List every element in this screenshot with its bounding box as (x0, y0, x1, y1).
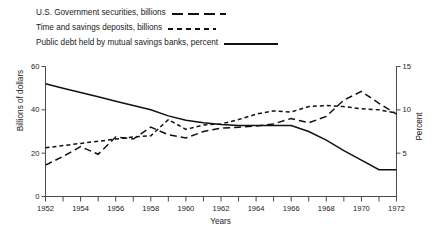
chart-plot-area: 0204060510151952195419561958196019621964… (0, 0, 441, 234)
x-tick-label: 1952 (37, 204, 54, 213)
x-tick-label: 1966 (283, 204, 300, 213)
y-tick-label-right: 5 (403, 149, 407, 158)
y-tick-label-right: 15 (403, 62, 411, 71)
y-tick-label-left: 20 (31, 149, 39, 158)
axis-frame (46, 67, 397, 197)
x-tick-label: 1956 (107, 204, 124, 213)
x-tick-label: 1964 (248, 204, 265, 213)
y-tick-label-left: 0 (35, 192, 39, 201)
y-tick-label-left: 60 (31, 62, 39, 71)
x-tick-label: 1972 (388, 204, 405, 213)
series-line (46, 106, 397, 148)
x-tick-label: 1962 (213, 204, 230, 213)
series-line (46, 91, 397, 165)
x-tick-label: 1968 (318, 204, 335, 213)
x-tick-label: 1960 (177, 204, 194, 213)
x-tick-label: 1958 (142, 204, 159, 213)
y-tick-label-left: 40 (31, 105, 39, 114)
y-tick-label-right: 10 (403, 105, 411, 114)
series-line (46, 84, 397, 170)
x-tick-label: 1970 (353, 204, 370, 213)
chart-figure: U.S. Government securities, billions Tim… (0, 0, 441, 234)
x-tick-label: 1954 (72, 204, 89, 213)
